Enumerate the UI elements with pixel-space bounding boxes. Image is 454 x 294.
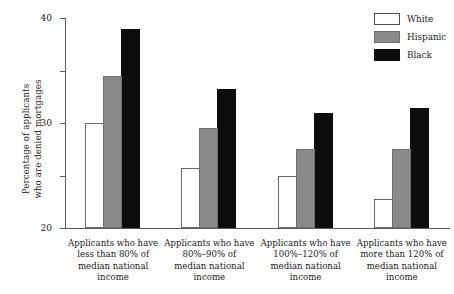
bar-hispanic-group-1 — [103, 76, 122, 228]
bar-hispanic-group-3 — [296, 149, 315, 228]
bar-white-group-4 — [374, 199, 393, 228]
category-label-line: median national — [348, 261, 454, 272]
y-tick-label: 40 — [41, 13, 52, 23]
y-tick-mark: 10 — [60, 176, 65, 177]
y-axis-label-line-1: Percentage of applicants — [21, 39, 33, 239]
bar-black-group-4 — [410, 108, 429, 228]
x-axis-category-label-1: Applicants who haveless than 80% ofmedia… — [59, 238, 167, 283]
category-label-line: median national — [252, 261, 360, 272]
legend-swatch-white — [374, 13, 400, 25]
legend-item-hispanic[interactable]: Hispanic — [374, 28, 454, 46]
bar-black-group-3 — [314, 113, 333, 229]
legend-label: White — [407, 14, 433, 24]
category-label-line: median national — [155, 261, 263, 272]
y-tick-mark: 20 — [60, 123, 65, 124]
bar-white-group-2 — [181, 168, 200, 228]
category-label-line: income — [348, 272, 454, 283]
x-axis-line — [65, 228, 450, 229]
y-tick-mark: 40 — [60, 18, 65, 19]
x-axis-category-label-2: Applicants who have80%–90% ofmedian nati… — [155, 238, 263, 283]
category-label-line: less than 80% of — [59, 249, 167, 260]
bar-chart: Percentage of applicants who are denied … — [0, 0, 454, 294]
bar-black-group-2 — [217, 89, 236, 228]
y-axis-label-line-2: who are denied mortgages — [33, 39, 45, 239]
category-label-line: income — [59, 272, 167, 283]
bar-white-group-1 — [85, 123, 104, 228]
category-label-line: Applicants who have — [59, 238, 167, 249]
y-axis-line — [65, 18, 66, 229]
legend-label: Black — [407, 50, 432, 60]
y-axis-label: Percentage of applicants who are denied … — [21, 39, 55, 239]
x-axis-category-label-4: Applicants who havemore than 120% ofmedi… — [348, 238, 454, 283]
legend: WhiteHispanicBlack — [374, 10, 454, 64]
y-tick-mark: 0 — [60, 228, 65, 229]
category-label-line: income — [155, 272, 263, 283]
category-label-line: 100%–120% of — [252, 249, 360, 260]
category-label-line: median national — [59, 261, 167, 272]
legend-label: Hispanic — [407, 32, 446, 42]
bar-hispanic-group-4 — [392, 149, 411, 228]
legend-item-black[interactable]: Black — [374, 46, 454, 64]
category-label-line: income — [252, 272, 360, 283]
bar-hispanic-group-2 — [199, 128, 218, 228]
legend-swatch-black — [374, 49, 400, 61]
bar-white-group-3 — [278, 176, 297, 229]
category-label-line: more than 120% of — [348, 249, 454, 260]
legend-swatch-hispanic — [374, 31, 400, 43]
category-label-line: Applicants who have — [252, 238, 360, 249]
y-tick-label: 30 — [41, 118, 52, 128]
y-tick-mark: 30 — [60, 71, 65, 72]
bar-black-group-1 — [121, 29, 140, 229]
category-label-line: Applicants who have — [155, 238, 263, 249]
category-label-line: Applicants who have — [348, 238, 454, 249]
y-tick-label: 20 — [41, 223, 52, 233]
category-label-line: 80%–90% of — [155, 249, 263, 260]
x-axis-category-label-3: Applicants who have100%–120% ofmedian na… — [252, 238, 360, 283]
legend-item-white[interactable]: White — [374, 10, 454, 28]
